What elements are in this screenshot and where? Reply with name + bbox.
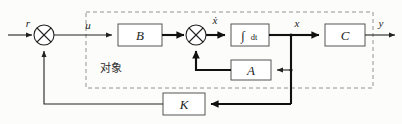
integrator-differential: dt [251,32,258,42]
wire-A-to-sum2 [196,51,231,70]
plant-dashed-boundary [86,12,373,88]
block-A-label: A [246,63,255,78]
block-K-label: K [179,97,190,112]
summing-junction-1 [34,25,54,45]
signal-label-u: u [85,19,91,31]
diagram-svg: B ∫ dt C A [0,0,402,124]
block-B-label: B [136,28,144,43]
block-C-label: C [341,28,350,43]
x-branch-node [289,33,292,36]
signal-label-x: x [294,17,300,29]
diagram-canvas: B ∫ dt C A [0,0,402,124]
summing-junction-2 [186,25,206,45]
signal-label-xdot: ẋ [212,14,218,26]
wire-K-to-sum1 [44,51,163,104]
x-branch-node-A [289,68,292,71]
signal-label-y: y [378,17,384,29]
plant-label: 对象 [100,61,122,75]
signal-label-r: r [26,17,31,29]
